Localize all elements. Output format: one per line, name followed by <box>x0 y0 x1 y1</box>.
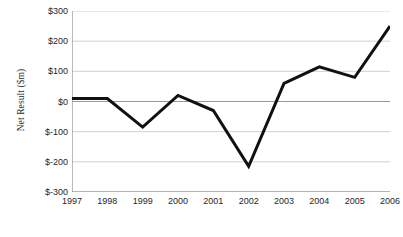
y-tick-label: $100 <box>28 66 68 76</box>
y-tick-label: $300 <box>28 6 68 16</box>
data-series-line <box>72 26 390 166</box>
plot-area <box>72 11 390 192</box>
x-tick-label: 2006 <box>368 196 403 206</box>
y-axis-title-label: Net Result ($m) <box>16 69 26 132</box>
x-axis-tick-labels: 1997199819992000200120022003200420052006 <box>72 196 390 216</box>
plot-svg <box>72 11 390 192</box>
y-tick-label: $-100 <box>28 127 68 137</box>
net-result-line-chart: Net Result ($m) $300$200$100$0$-100$-200… <box>0 0 403 237</box>
y-tick-label: $-200 <box>28 157 68 167</box>
y-tick-label: $200 <box>28 36 68 46</box>
y-tick-label: $0 <box>28 97 68 107</box>
series-line-net-result <box>72 26 390 166</box>
